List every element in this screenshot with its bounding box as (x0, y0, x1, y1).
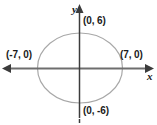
vertex-label-left: (-7, 0) (6, 49, 32, 60)
vertex-label-right: (7, 0) (120, 49, 143, 60)
coordinate-plane-svg (0, 0, 157, 125)
x-axis-left-arrowhead (2, 64, 11, 73)
vertex-label-bottom: (0, -6) (83, 105, 109, 116)
vertex-label-top: (0, 6) (83, 15, 106, 26)
x-axis-label: x (147, 71, 153, 82)
y-axis-label: y (72, 4, 77, 15)
ellipse-graph-figure: (0, 6) (7, 0) (-7, 0) (0, -6) y x (0, 0, 157, 125)
